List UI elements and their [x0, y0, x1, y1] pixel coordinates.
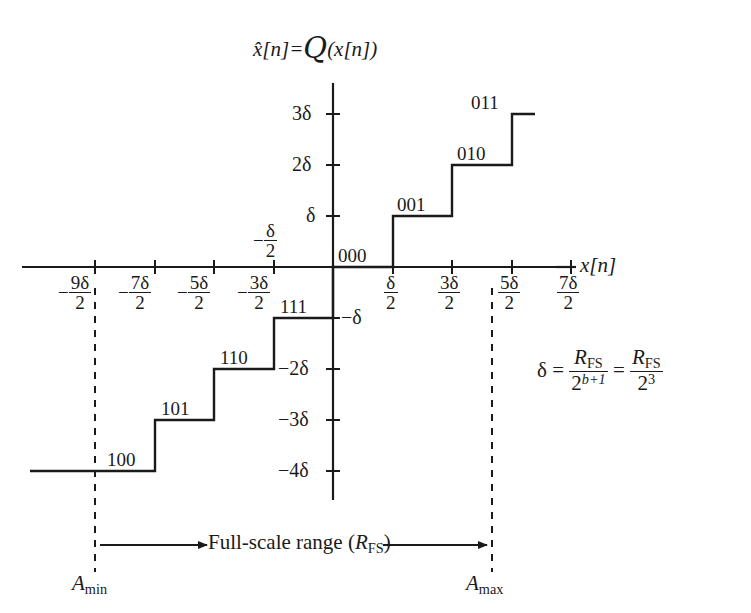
code-label-000: 000	[338, 246, 367, 265]
x-tick-sign: −	[237, 283, 248, 302]
equation-frac1-exp: b+1	[582, 371, 606, 387]
y-origin-note-denominator: 2	[264, 240, 278, 260]
equation-fraction-2: RFS 23	[630, 347, 663, 394]
x-tick-numerator: 5δ	[188, 273, 210, 292]
x-tick-numerator: 3δ	[438, 273, 460, 292]
delta-equation: δ = RFS 2b+1 = RFS 23	[537, 348, 663, 395]
y-axis-title: x̂[n]=Q(x[n])	[253, 32, 377, 61]
x-tick-denominator: 2	[438, 292, 460, 312]
x-tick-denominator: 2	[498, 292, 520, 312]
x-tick-sign: −	[118, 283, 129, 302]
code-label-010: 010	[457, 144, 486, 163]
equation-frac2-denominator: 23	[630, 371, 663, 395]
x-tick-numerator: 9δ	[69, 273, 91, 292]
full-scale-range-lead: Full-scale range (	[208, 530, 355, 554]
x-tick-numerator: 3δ	[248, 273, 270, 292]
x-tick-denominator: 2	[188, 292, 210, 312]
y-tick-label-neg-2delta: −2δ	[278, 358, 309, 378]
y-tick-label-neg-4delta: −4δ	[278, 460, 309, 480]
y-tick-label-3delta: 3δ	[292, 103, 311, 123]
amin-sub: min	[85, 581, 107, 597]
x-tick-denominator: 2	[384, 292, 398, 312]
equation-frac2-base: 2	[638, 371, 649, 395]
x-tick-label-neg-3delta-2: − 3δ 2	[237, 274, 270, 314]
y-origin-note-neg-half-delta: − δ 2	[253, 222, 277, 262]
code-label-111: 111	[280, 297, 307, 316]
x-tick-fraction: δ 2	[384, 273, 398, 313]
x-tick-label-neg-9delta-2: − 9δ 2	[58, 274, 91, 314]
code-label-110: 110	[220, 348, 248, 367]
quantizer-plot-svg	[0, 0, 751, 613]
x-tick-numerator: 7δ	[557, 273, 579, 292]
full-scale-range-label: Full-scale range (RFS)	[208, 532, 391, 555]
equation-frac1-sub: FS	[587, 355, 603, 371]
quantizer-figure: x̂[n]=Q(x[n]) x[n] 3δ 2δ δ −δ −2δ −3δ −4…	[0, 0, 751, 613]
x-tick-fraction: 3δ 2	[438, 273, 460, 313]
x-tick-label-neg-5delta-2: − 5δ 2	[177, 274, 210, 314]
amin-label: Amin	[72, 573, 107, 596]
equation-frac2-r: R	[632, 345, 645, 369]
x-tick-fraction: 9δ 2	[69, 273, 91, 313]
code-label-001: 001	[397, 195, 426, 214]
y-origin-note-sign: −	[253, 231, 264, 250]
x-tick-label-3delta-2: 3δ 2	[438, 274, 460, 314]
full-scale-range-sub: FS	[368, 540, 384, 556]
equation-frac2-numerator: RFS	[630, 347, 663, 371]
equation-equals-2: =	[613, 358, 625, 382]
x-tick-denominator: 2	[248, 292, 270, 312]
equation-frac1-denominator: 2b+1	[569, 371, 607, 395]
y-axis-title-rhs: (x[n])	[327, 37, 377, 61]
x-tick-sign: −	[177, 283, 188, 302]
quantizer-operator-symbol: Q	[303, 31, 327, 65]
x-tick-label-delta-2: δ 2	[384, 274, 398, 314]
x-tick-fraction: 3δ 2	[248, 273, 270, 313]
equation-delta-symbol: δ	[537, 358, 547, 382]
code-label-100: 100	[107, 450, 136, 469]
code-label-011: 011	[471, 93, 499, 112]
x-tick-fraction: 5δ 2	[188, 273, 210, 313]
x-tick-label-neg-7delta-2: − 7δ 2	[118, 274, 151, 314]
full-scale-range-tail: )	[384, 530, 391, 554]
x-tick-denominator: 2	[129, 292, 151, 312]
x-tick-denominator: 2	[557, 292, 579, 312]
x-axis-title: x[n]	[580, 255, 616, 276]
x-tick-numerator: 5δ	[498, 273, 520, 292]
x-tick-fraction: 7δ 2	[557, 273, 579, 313]
equation-frac1-r: R	[574, 345, 587, 369]
equation-frac1-base: 2	[571, 371, 582, 395]
y-tick-label-2delta: 2δ	[292, 154, 311, 174]
y-tick-label-neg-3delta: −3δ	[278, 409, 309, 429]
x-tick-denominator: 2	[69, 292, 91, 312]
x-tick-numerator: 7δ	[129, 273, 151, 292]
equation-frac1-numerator: RFS	[569, 347, 607, 371]
y-tick-label-delta: δ	[306, 205, 315, 225]
full-scale-range-r: R	[355, 530, 368, 554]
x-tick-numerator: δ	[384, 273, 398, 292]
equation-fraction-1: RFS 2b+1	[569, 347, 607, 394]
amax-base: A	[466, 571, 479, 595]
y-axis-title-lhs: x̂[n]=	[253, 37, 303, 61]
y-tick-label-neg-delta: −δ	[341, 307, 362, 327]
amax-sub: max	[479, 581, 504, 597]
amax-label: Amax	[466, 573, 503, 596]
x-tick-sign: −	[58, 283, 69, 302]
x-tick-fraction: 7δ 2	[129, 273, 151, 313]
amin-base: A	[72, 571, 85, 595]
equation-frac2-sub: FS	[645, 355, 661, 371]
code-label-101: 101	[161, 399, 190, 418]
y-origin-note-numerator: δ	[264, 221, 278, 240]
x-tick-fraction: 5δ 2	[498, 273, 520, 313]
equation-frac2-exp: 3	[648, 371, 655, 387]
x-tick-label-5delta-2: 5δ 2	[498, 274, 520, 314]
y-origin-note-fraction: δ 2	[264, 221, 278, 261]
x-tick-label-7delta-2: 7δ 2	[557, 274, 579, 314]
equation-equals-1: =	[552, 358, 564, 382]
